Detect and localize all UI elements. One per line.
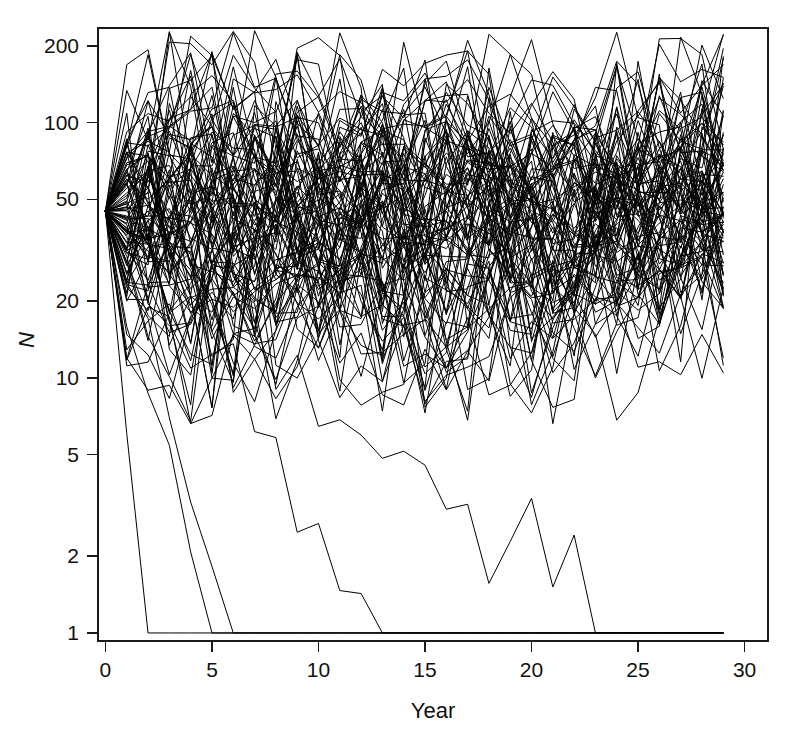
y-axis-ticks-group: 125102050100200 [44, 34, 98, 644]
y-axis-tick-label: 5 [67, 443, 79, 466]
y-axis-tick-label: 10 [56, 366, 79, 389]
y-axis-tick-label: 1 [67, 621, 79, 644]
x-axis-tick-label: 30 [733, 658, 756, 681]
y-axis-tick-label: 20 [56, 289, 79, 312]
population-trajectory-chart: 125102050100200 051015202530 Year N [0, 0, 804, 738]
y-axis-tick-label: 50 [56, 187, 79, 210]
x-axis-ticks-group: 051015202530 [100, 641, 757, 681]
x-axis-tick-label: 10 [307, 658, 330, 681]
y-axis-title: N [14, 332, 39, 348]
y-axis-tick-label: 2 [67, 544, 79, 567]
figure-root: 125102050100200 051015202530 Year N [0, 0, 804, 738]
x-axis-title: Year [411, 698, 455, 723]
x-axis-tick-label: 25 [626, 658, 649, 681]
x-axis-tick-label: 20 [520, 658, 543, 681]
y-axis-tick-label: 200 [44, 34, 79, 57]
x-axis-tick-label: 5 [206, 658, 218, 681]
x-axis-tick-label: 0 [100, 658, 112, 681]
x-axis-tick-label: 15 [413, 658, 436, 681]
y-axis-tick-label: 100 [44, 111, 79, 134]
